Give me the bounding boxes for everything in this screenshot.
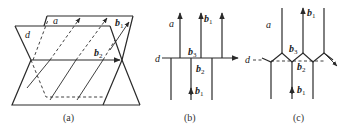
label-d: d	[25, 29, 31, 40]
label-b2: b2	[297, 61, 306, 74]
label-b1-bottom: b1	[297, 84, 306, 97]
label-b2: b2	[196, 63, 205, 76]
label-b1-bottom: b1	[195, 85, 204, 98]
caption-b: (b)	[184, 112, 196, 124]
solid-field-line-3	[77, 60, 103, 100]
panel-c: a d b1 b3 b2 b1 (c)	[245, 7, 337, 124]
label-b2: b2	[94, 47, 103, 60]
label-b1-top: b1	[307, 7, 316, 20]
label-b3: b3	[188, 46, 197, 59]
back-plane-left-edge	[44, 16, 47, 26]
label-d: d	[155, 53, 161, 64]
diagram-canvas: a d b1 b2 (a) a d b1 b3 b2 b1 (b)	[0, 0, 350, 133]
label-d: d	[245, 54, 251, 65]
solid-field-line-1	[27, 60, 50, 88]
hidden-edge	[31, 60, 105, 97]
label-a: a	[266, 19, 271, 30]
caption-c: (c)	[293, 112, 304, 124]
panel-b: a d b1 b3 b2 b1 (b)	[155, 13, 238, 124]
lower-plane-edges	[12, 60, 103, 105]
label-b1: b1	[115, 17, 124, 30]
panel-a: a d b1 b2 (a)	[12, 15, 140, 124]
label-a: a	[53, 15, 58, 26]
caption-a: (a)	[63, 112, 74, 124]
label-a: a	[169, 18, 174, 29]
label-b1-top: b1	[204, 13, 213, 26]
label-b3: b3	[289, 43, 298, 56]
solid-field-line-2	[50, 60, 76, 100]
d-arrow	[324, 53, 337, 66]
dashed-field-line-4	[103, 40, 115, 60]
front-plane-right-edge	[110, 26, 140, 105]
